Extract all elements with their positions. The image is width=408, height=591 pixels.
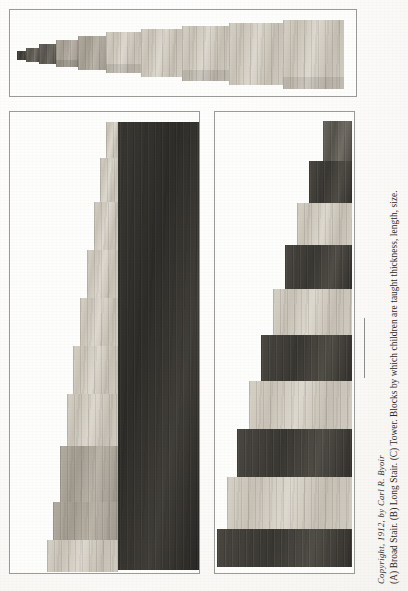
- broad-stair-step-2: [53, 502, 118, 540]
- broad-stair-step-3: [60, 446, 118, 502]
- tower-block-1: [17, 51, 26, 60]
- broad-stair-step-8: [94, 202, 118, 250]
- long-stair-rod-1: [217, 529, 352, 567]
- tower-shadow-strip-a: [56, 60, 78, 67]
- broad-stair-step-7: [87, 250, 118, 298]
- tower-block-5: [78, 36, 106, 70]
- long-stair-rod-5: [261, 335, 352, 381]
- long-stair-rod-10: [323, 121, 352, 161]
- long-stair-rod-8: [297, 203, 352, 245]
- panel-tower: [9, 9, 357, 97]
- broad-stair-step-5: [73, 346, 118, 394]
- tower-shadow-strip-d: [283, 77, 344, 89]
- broad-stair-photo: [10, 112, 199, 573]
- plate-page: (A) Broad Stair. (B) Long Stair. (C) Tow…: [0, 0, 408, 591]
- broad-stair-step-4: [67, 394, 118, 446]
- long-stair-rod-6: [273, 289, 352, 335]
- broad-stair-step-1: [47, 540, 118, 572]
- caption-description: (A) Broad Stair. (B) Long Stair. (C) Tow…: [389, 190, 399, 584]
- tower-block-9: [229, 23, 283, 85]
- tower-shadow-strip-b: [106, 64, 141, 73]
- caption-copyright: Copyright, 1912, by Carl R. Byoir: [376, 455, 386, 584]
- long-stair-photo: [215, 112, 354, 573]
- tower-block-3: [39, 44, 56, 64]
- broad-stair-step-9: [100, 158, 118, 202]
- caption-rule: [364, 318, 365, 378]
- broad-stair-core-shadow: [118, 122, 199, 570]
- tower-block-7: [141, 29, 182, 77]
- broad-stair-step-6: [80, 298, 118, 346]
- long-stair-rod-4: [249, 381, 352, 429]
- panel-broad-stair: [9, 111, 200, 574]
- panel-long-stair: [214, 111, 355, 574]
- broad-stair-step-10: [106, 122, 118, 158]
- tower-block-2: [26, 48, 39, 62]
- long-stair-rod-2: [227, 477, 352, 529]
- long-stair-rod-3: [237, 429, 352, 477]
- long-stair-rod-7: [285, 245, 352, 289]
- long-stair-rod-9: [309, 161, 352, 203]
- tower-shadow-strip-c: [182, 70, 229, 81]
- caption-block: (A) Broad Stair. (B) Long Stair. (C) Tow…: [358, 0, 408, 591]
- tower-photo: [10, 10, 356, 96]
